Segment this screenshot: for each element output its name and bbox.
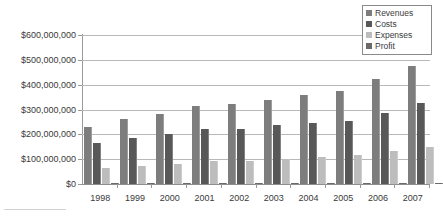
x-axis-tick bbox=[118, 184, 153, 189]
bar-expenses-2007 bbox=[426, 147, 434, 184]
y-axis: $0$100,000,000$200,000,000$300,000,000$4… bbox=[0, 0, 76, 216]
bar-revenues-1998 bbox=[84, 127, 92, 184]
legend-label: Costs bbox=[375, 19, 397, 29]
bar-group-2001 bbox=[191, 35, 227, 184]
bar-costs-2006 bbox=[381, 113, 389, 184]
legend-swatch-icon bbox=[366, 10, 372, 16]
bar-revenues-2002 bbox=[228, 104, 236, 184]
bar-expenses-2000 bbox=[174, 164, 182, 184]
y-axis-tick bbox=[78, 184, 82, 185]
bar-group-1998 bbox=[83, 35, 119, 184]
y-axis-label: $200,000,000 bbox=[4, 130, 76, 139]
bar-expenses-2002 bbox=[246, 161, 254, 184]
bar-revenues-2000 bbox=[156, 114, 164, 184]
bar-group-2000 bbox=[155, 35, 191, 184]
y-axis-label: $300,000,000 bbox=[4, 106, 76, 115]
y-axis-label: $600,000,000 bbox=[4, 31, 76, 40]
bar-costs-2001 bbox=[201, 129, 209, 184]
bar-expenses-1999 bbox=[138, 166, 146, 184]
bar-expenses-2006 bbox=[390, 151, 398, 184]
bar-group-2006 bbox=[371, 35, 407, 184]
y-axis-tick bbox=[78, 35, 82, 36]
x-axis-tick bbox=[395, 184, 430, 189]
y-axis-label: $500,000,000 bbox=[4, 56, 76, 65]
legend-swatch-icon bbox=[366, 21, 372, 27]
bar-revenues-2007 bbox=[408, 66, 416, 184]
x-axis-tick bbox=[326, 184, 361, 189]
x-axis-tick bbox=[83, 184, 118, 189]
legend-swatch-icon bbox=[366, 43, 372, 49]
bar-group-2005 bbox=[335, 35, 371, 184]
x-axis-ticks bbox=[83, 184, 430, 189]
x-axis-label-2003: 2003 bbox=[257, 192, 292, 206]
x-axis-label-1998: 1998 bbox=[83, 192, 118, 206]
legend-item-costs[interactable]: Costs bbox=[366, 19, 428, 29]
legend-swatch-icon bbox=[366, 32, 372, 38]
bar-revenues-1999 bbox=[120, 119, 128, 184]
chart-legend: RevenuesCostsExpensesProfit bbox=[362, 5, 432, 55]
x-axis-label-2004: 2004 bbox=[291, 192, 326, 206]
y-axis-tick bbox=[78, 110, 82, 111]
bar-expenses-2004 bbox=[318, 157, 326, 184]
y-axis-tick bbox=[78, 134, 82, 135]
bar-groups bbox=[83, 35, 430, 184]
bar-group-2003 bbox=[263, 35, 299, 184]
bar-expenses-2001 bbox=[210, 161, 218, 184]
bar-revenues-2001 bbox=[192, 106, 200, 184]
bar-revenues-2003 bbox=[264, 100, 272, 184]
y-axis-label: $400,000,000 bbox=[4, 81, 76, 90]
x-axis-tick bbox=[222, 184, 257, 189]
page-rule bbox=[4, 209, 66, 210]
bar-expenses-2005 bbox=[354, 155, 362, 184]
x-axis-label-2001: 2001 bbox=[187, 192, 222, 206]
x-axis-label-2005: 2005 bbox=[326, 192, 361, 206]
x-axis-tick bbox=[291, 184, 326, 189]
bar-group-1999 bbox=[119, 35, 155, 184]
x-axis-tick bbox=[187, 184, 222, 189]
bar-revenues-2004 bbox=[300, 95, 308, 184]
bar-revenues-2006 bbox=[372, 79, 380, 184]
bar-expenses-2003 bbox=[282, 159, 290, 184]
x-axis-labels: 1998199920002001200220032004200520062007 bbox=[83, 192, 430, 206]
legend-label: Expenses bbox=[375, 30, 412, 40]
x-axis-label-2002: 2002 bbox=[222, 192, 257, 206]
legend-item-profit[interactable]: Profit bbox=[366, 41, 428, 51]
bar-group-2004 bbox=[299, 35, 335, 184]
bar-group-2002 bbox=[227, 35, 263, 184]
x-axis-label-2007: 2007 bbox=[395, 192, 430, 206]
bar-profit-2007 bbox=[435, 183, 443, 184]
y-axis-tick bbox=[78, 60, 82, 61]
y-axis-tick bbox=[78, 159, 82, 160]
x-axis-tick bbox=[361, 184, 396, 189]
x-axis-label-2000: 2000 bbox=[152, 192, 187, 206]
bar-costs-1998 bbox=[93, 143, 101, 184]
legend-item-expenses[interactable]: Expenses bbox=[366, 30, 428, 40]
legend-label: Profit bbox=[375, 41, 395, 51]
bar-costs-2007 bbox=[417, 103, 425, 184]
x-axis-label-2006: 2006 bbox=[361, 192, 396, 206]
bar-revenues-2005 bbox=[336, 91, 344, 184]
y-axis-tick bbox=[78, 85, 82, 86]
x-axis-label-1999: 1999 bbox=[118, 192, 153, 206]
bar-costs-2003 bbox=[273, 125, 281, 184]
bar-costs-2004 bbox=[309, 123, 317, 184]
bar-costs-2005 bbox=[345, 121, 353, 184]
legend-item-revenues[interactable]: Revenues bbox=[366, 8, 428, 18]
bar-costs-1999 bbox=[129, 138, 137, 184]
bar-expenses-1998 bbox=[102, 168, 110, 184]
legend-label: Revenues bbox=[375, 8, 413, 18]
x-axis-tick bbox=[257, 184, 292, 189]
y-axis-label: $0 bbox=[4, 180, 76, 189]
bar-group-2007 bbox=[407, 35, 443, 184]
bar-costs-2002 bbox=[237, 129, 245, 184]
bar-costs-2000 bbox=[165, 134, 173, 184]
y-axis-label: $100,000,000 bbox=[4, 155, 76, 164]
x-axis-tick bbox=[152, 184, 187, 189]
